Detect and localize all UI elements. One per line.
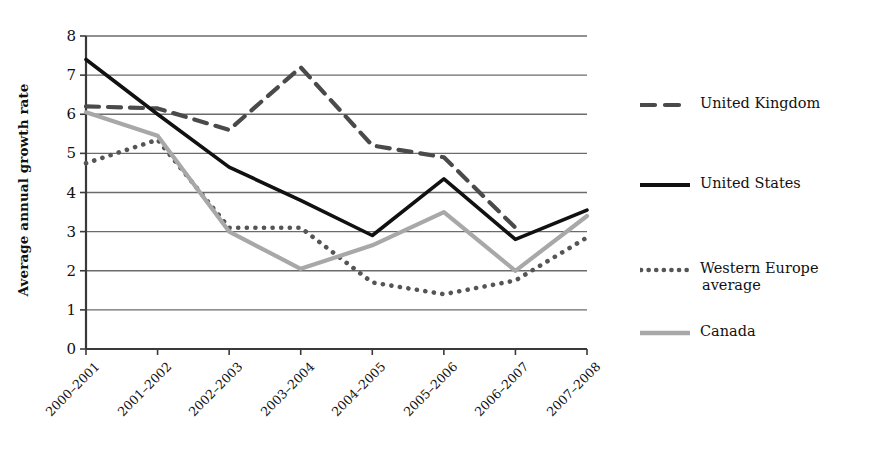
plot-area	[0, 0, 870, 452]
legend-label-1: United States	[700, 175, 801, 192]
legend-label-2: Western Europeaverage	[700, 260, 818, 293]
series-line-0	[86, 67, 515, 227]
legend-item-2[interactable]: Western Europeaverage	[640, 260, 818, 293]
series-line-1	[86, 60, 587, 240]
chart-figure: Average annual growth rate 876543210 200…	[0, 0, 870, 452]
legend-swatch-icon-1	[640, 177, 690, 193]
legend-item-1[interactable]: United States	[640, 175, 801, 193]
legend-item-0[interactable]: United Kingdom	[640, 95, 820, 113]
legend-item-3[interactable]: Canada	[640, 323, 756, 341]
legend-label-3: Canada	[700, 323, 756, 340]
legend-swatch-icon-2	[640, 262, 690, 278]
legend-label-0: United Kingdom	[700, 95, 820, 112]
series-line-3	[86, 112, 587, 270]
legend-swatch-icon-3	[640, 325, 690, 341]
legend-swatch-icon-0	[640, 97, 690, 113]
